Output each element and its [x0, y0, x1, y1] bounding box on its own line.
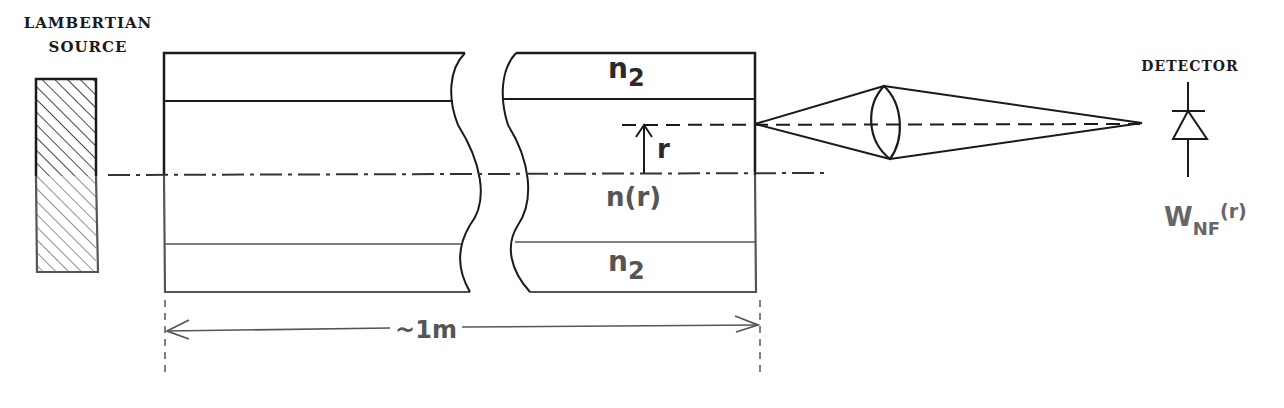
- source-label-line2: SOURCE: [49, 38, 128, 56]
- cladding-bottom-label: n2: [608, 245, 645, 285]
- length-label: ~1m: [395, 316, 457, 344]
- core-index-label: n(r): [606, 182, 661, 212]
- detector-signal-label: WNF(r): [1164, 200, 1247, 239]
- diagram-canvas: LAMBERTIAN SOURCE r: [0, 0, 1284, 408]
- source-label-line1: LAMBERTIAN: [24, 14, 153, 32]
- radial-label: r: [657, 134, 670, 164]
- length-dimension: [165, 300, 760, 375]
- lambertian-source-icon: [36, 79, 98, 272]
- photodiode-icon: [1172, 82, 1207, 177]
- fiber-left-segment: [164, 53, 481, 292]
- detector-label: DETECTOR: [1141, 58, 1238, 74]
- scan-axis-dashed: [622, 124, 1140, 125]
- radial-offset-arrow: [636, 125, 652, 173]
- imaging-rays: [755, 86, 1142, 159]
- optical-axis: [108, 173, 825, 175]
- cladding-top-label: n2: [608, 52, 645, 92]
- lens-icon: [871, 86, 900, 159]
